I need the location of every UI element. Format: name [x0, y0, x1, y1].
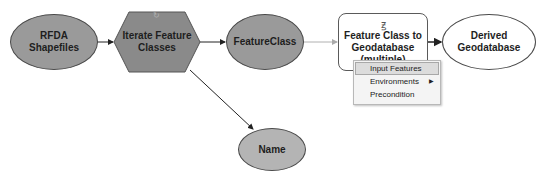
node-label: Derived — [471, 30, 508, 42]
node-label: RFDA — [40, 30, 68, 42]
node-label: Name — [258, 144, 285, 156]
node-label: Feature Class to — [344, 30, 422, 42]
node-iterate-feature-classes[interactable]: ↻ Iterate Feature Classes — [113, 11, 201, 73]
node-label: Classes — [138, 42, 176, 54]
submenu-arrow-icon: ▶ — [429, 75, 434, 88]
node-rfda-shapefiles[interactable]: RFDA Shapefiles — [10, 14, 98, 70]
node-label: Geodatabase — [352, 42, 415, 54]
node-featureclass[interactable]: FeatureClass — [226, 14, 304, 70]
node-name[interactable]: Name — [238, 128, 306, 171]
connector-iterate-to-name[interactable] — [190, 70, 253, 129]
context-menu: Input Features Environments ▶ Preconditi… — [353, 60, 441, 105]
tool-icon: ꙃ — [381, 19, 386, 29]
model-canvas: RFDA Shapefiles ↻ Iterate Feature Classe… — [0, 0, 547, 183]
menu-item-input-features[interactable]: Input Features — [355, 62, 439, 75]
node-label: FeatureClass — [234, 36, 297, 48]
node-label: Geodatabase — [458, 42, 521, 54]
menu-item-label: Input Features — [370, 64, 422, 73]
node-derived-geodatabase[interactable]: Derived Geodatabase — [442, 14, 536, 70]
node-label: Iterate Feature — [123, 30, 192, 42]
menu-item-precondition[interactable]: Precondition — [354, 88, 440, 101]
node-label: Shapefiles — [29, 42, 79, 54]
menu-item-environments[interactable]: Environments ▶ — [354, 75, 440, 88]
menu-item-label: Precondition — [370, 90, 414, 99]
menu-item-label: Environments — [370, 77, 419, 86]
